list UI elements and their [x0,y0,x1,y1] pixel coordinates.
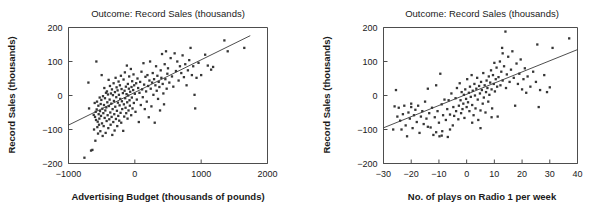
data-point [99,96,101,98]
data-point [122,78,124,80]
data-point [568,37,570,39]
data-point [123,103,125,105]
data-point [524,67,526,69]
data-point [158,86,160,88]
data-point [124,71,126,73]
data-point [425,117,427,119]
data-point [463,117,465,119]
chart-title: Outcome: Record Sales (thousands) [405,8,559,19]
data-point [138,92,140,94]
data-point [536,43,538,45]
data-point [465,106,467,108]
data-point [125,112,127,114]
data-point [136,98,138,100]
data-point [193,94,195,96]
data-point [87,81,89,83]
data-point [117,80,119,82]
data-point [525,92,527,94]
data-point [146,74,148,76]
data-point [461,108,463,110]
data-point [497,76,499,78]
data-point [106,114,108,116]
data-point [133,84,135,86]
data-point [504,30,506,32]
data-point [115,86,117,88]
data-point [466,78,468,80]
data-point [143,83,145,85]
data-point [513,77,515,79]
data-point [502,52,504,54]
data-point [505,87,507,89]
data-point [115,96,117,98]
data-point [96,108,98,110]
data-point [152,72,154,74]
data-point [105,120,107,122]
data-point [112,121,114,123]
data-point [120,122,122,124]
data-point [535,81,537,83]
data-point [418,132,420,134]
x-tick-label: 0 [132,169,137,179]
y-axis-ticks: 2001000−100−200 [42,23,72,169]
data-point [112,82,114,84]
data-point [204,54,206,56]
data-point [194,107,196,109]
data-point [126,101,128,103]
data-point [155,65,157,67]
data-point [485,79,487,81]
data-points [83,39,245,159]
data-point [119,84,121,86]
data-point [149,60,151,62]
data-point [185,84,187,86]
data-point [154,84,156,86]
data-point [474,94,476,96]
data-point [515,62,517,64]
y-tick-label: 0 [372,91,377,101]
data-point [121,108,123,110]
data-point [142,96,144,98]
data-point [210,69,212,71]
data-point [458,105,460,107]
data-point [452,106,454,108]
x-tick-label: 30 [545,169,555,179]
data-point [429,126,431,128]
y-axis-ticks: 2001000−100−200 [357,23,387,169]
data-point [506,73,508,75]
data-point [479,109,481,111]
data-point [400,128,402,130]
y-tick-label: 200 [47,23,62,33]
data-point [526,75,528,77]
data-point [100,115,102,117]
data-point [489,81,491,83]
data-point [468,110,470,112]
data-point [95,60,97,62]
data-point [438,122,440,124]
data-point [449,113,451,115]
data-point [207,64,209,66]
data-point [482,72,484,74]
data-point [471,104,473,106]
data-point [486,87,488,89]
data-point [170,57,172,59]
data-point [223,39,225,41]
data-point [120,75,122,77]
data-point [104,117,106,119]
data-point [538,106,540,108]
data-point [503,65,505,67]
data-point [189,47,191,49]
data-point [487,100,489,102]
data-point [171,75,173,77]
data-point [447,136,449,138]
data-point [114,91,116,93]
data-point [148,79,150,81]
data-point [118,104,120,106]
data-point [156,90,158,92]
data-point [395,89,397,91]
data-point [102,112,104,114]
data-point [405,124,407,126]
data-point [104,97,106,99]
data-point [107,93,109,95]
data-point [121,100,123,102]
data-point [127,109,129,111]
y-tick-label: −100 [42,125,62,135]
